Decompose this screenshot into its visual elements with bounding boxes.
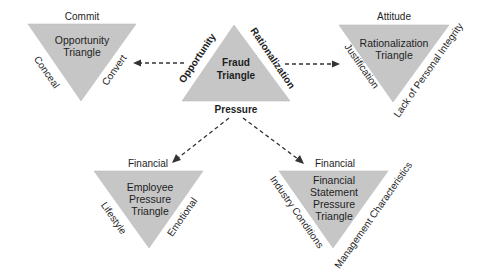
financial-statement-triangle-group: Financial Financial Statement Pressure T… [268, 158, 414, 270]
arrowhead-left-icon [133, 60, 141, 67]
fraud-triangle-group: Fraud Triangle Opportunity Rationalizati… [177, 25, 298, 115]
arrow-to-rationalization [285, 61, 340, 68]
opportunity-triangle-group: Commit Opportunity Triangle Conceal Conv… [28, 11, 136, 101]
fraud-triangle-diagram: Commit Opportunity Triangle Conceal Conv… [0, 0, 486, 278]
arrowhead-down-left-icon [172, 154, 181, 163]
employee-title-line1: Employee [127, 181, 174, 193]
opportunity-title-line1: Opportunity [55, 34, 110, 46]
fraud-title-line2: Triangle [217, 70, 256, 81]
rationalization-title-line2: Triangle [375, 49, 413, 61]
arrowhead-down-right-icon [295, 155, 304, 164]
employee-top-label: Financial [128, 158, 168, 169]
arrow-to-employee-pressure [172, 118, 229, 163]
financial-statement-top-label: Financial [315, 158, 355, 169]
rationalization-triangle-group: Attitude Rationalization Triangle Justif… [339, 11, 465, 119]
financial-statement-title-line2: Statement [310, 186, 358, 198]
employee-title-line2: Pressure [129, 193, 171, 205]
opportunity-title-line2: Triangle [63, 46, 101, 58]
arrowhead-right-icon [332, 61, 340, 68]
financial-statement-title-line3: Pressure [313, 198, 355, 210]
financial-statement-title-line1: Financial [313, 174, 355, 186]
financial-statement-title-line4: Triangle [315, 210, 353, 222]
arrow-to-financial-statement [243, 118, 304, 164]
opportunity-top-label: Commit [65, 11, 100, 22]
rationalization-top-label: Attitude [377, 11, 411, 22]
arrow-to-opportunity [133, 60, 184, 67]
rationalization-title-line1: Rationalization [360, 37, 429, 49]
fraud-bottom-label: Pressure [215, 104, 258, 115]
employee-title-line3: Triangle [131, 205, 169, 217]
employee-pressure-triangle-group: Financial Employee Pressure Triangle Lif… [94, 158, 203, 248]
fraud-title-line1: Fraud [222, 57, 250, 68]
